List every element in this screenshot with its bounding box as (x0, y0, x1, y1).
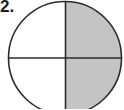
shaded-right-half (65, 2, 122, 110)
fraction-circle (0, 0, 124, 109)
